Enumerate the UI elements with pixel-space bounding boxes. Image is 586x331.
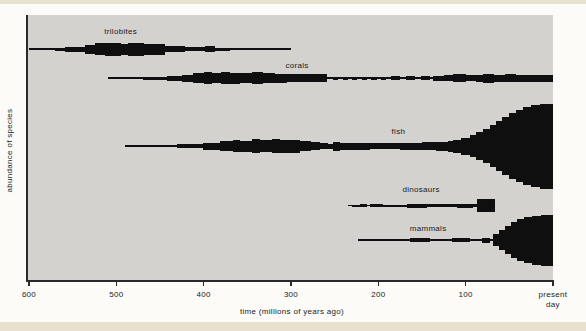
spindle-segment-fish [523, 107, 531, 185]
spindle-segment-fish [272, 139, 280, 153]
spindle-segment-fish [470, 135, 476, 157]
spindle-segment-trilobites [65, 47, 85, 52]
spindle-segment-fish [370, 143, 401, 149]
spindle-segment-corals [204, 72, 213, 84]
x-tick-label-0: day [546, 300, 560, 309]
x-tick-label-300: 300 [284, 290, 298, 299]
spindle-segment-fish [240, 141, 251, 152]
spindle-segment-corals [371, 77, 376, 80]
chart-canvas: trilobitescoralsfishdinosaursmammals6005… [0, 0, 586, 331]
spindle-segment-fish [461, 138, 470, 155]
spindle-segment-trilobites [95, 43, 105, 55]
spindle-segment-corals [421, 76, 430, 80]
spindle-segment-fish [320, 143, 328, 149]
spindle-segment-mammals [410, 238, 430, 242]
spindle-segment-corals [240, 73, 251, 83]
spindle-segment-fish [516, 110, 523, 182]
spindle-segment-trilobites [55, 48, 65, 51]
spindle-segment-fish [540, 104, 553, 189]
x-tick-100 [465, 281, 466, 286]
y-axis-line [26, 15, 28, 282]
spindle-segment-mammals [430, 239, 452, 241]
spindle-segment-fish [280, 140, 300, 153]
spindle-segment-corals [406, 76, 415, 80]
spindle-segment-corals [143, 77, 167, 80]
y-axis-title: abundance of species [5, 91, 14, 211]
spindle-segment-fish [509, 113, 516, 179]
spindle-diagram-figure: trilobitescoralsfishdinosaursmammals6005… [0, 0, 586, 331]
spindle-segment-trilobites [85, 45, 95, 54]
x-tick-0 [552, 281, 553, 286]
spindle-segment-mammals [511, 222, 517, 258]
spindle-segment-corals [287, 74, 327, 82]
spindle-segment-fish [483, 129, 490, 163]
spindle-segment-trilobites [105, 43, 121, 56]
spindle-segment-fish [151, 145, 177, 147]
spindle-segment-corals [167, 76, 182, 81]
spindle-segment-corals [505, 74, 516, 82]
spindle-segment-corals [453, 74, 465, 82]
spindle-segment-fish [448, 141, 453, 152]
spindle-segment-dinosaurs [427, 204, 433, 207]
spindle-segment-fish [203, 143, 220, 150]
spindle-segment-dinosaurs [477, 199, 495, 212]
spindle-segment-fish [496, 121, 502, 171]
x-tick-400 [203, 281, 204, 286]
spindle-segment-corals [193, 73, 203, 83]
spindle-segment-dinosaurs [383, 205, 407, 207]
series-label-fish: fish [392, 127, 406, 136]
spindle-segment-mammals [493, 234, 499, 246]
spindle-segment-corals [230, 73, 240, 84]
spindle-segment-trilobites [121, 44, 128, 55]
spindle-segment-trilobites [185, 47, 205, 51]
series-label-trilobites: trilobites [104, 27, 137, 36]
spindle-segment-fish [220, 141, 233, 151]
spindle-segment-fish [311, 142, 320, 150]
spindle-segment-fish [340, 143, 348, 150]
spindle-segment-trilobites [215, 48, 230, 51]
spindle-segment-fish [177, 144, 202, 148]
x-tick-500 [116, 281, 117, 286]
spindle-segment-dinosaurs [433, 204, 457, 207]
spindle-segment-fish [400, 143, 422, 150]
series-label-mammals: mammals [410, 224, 447, 233]
spindle-segment-dinosaurs [352, 205, 360, 207]
spindle-segment-fish [300, 141, 311, 151]
spindle-segment-corals [391, 76, 400, 80]
spindle-segment-corals [333, 77, 338, 80]
spindle-segment-fish [233, 140, 240, 152]
spindle-segment-corals [252, 72, 263, 84]
spindle-segment-fish [490, 125, 496, 167]
spindle-segment-fish [476, 132, 483, 160]
spindle-segment-corals [343, 77, 348, 80]
spindle-segment-trilobites [29, 49, 55, 50]
x-tick-label-100: 100 [459, 290, 473, 299]
spindle-segment-corals [182, 75, 193, 82]
spindle-segment-mammals [499, 230, 505, 250]
x-axis-title: time (millions of years ago) [182, 307, 402, 316]
spindle-segment-mammals [452, 238, 470, 242]
spindle-segment-mammals [373, 239, 410, 241]
spindle-segment-dinosaurs [360, 204, 367, 208]
spindle-segment-mammals [524, 217, 532, 263]
spindle-segment-corals [221, 72, 230, 84]
spindle-segment-trilobites [128, 43, 145, 56]
spindle-segment-corals [466, 75, 476, 81]
spindle-segment-fish [333, 142, 340, 151]
spindle-segment-fish [436, 142, 448, 151]
series-label-corals: corals [286, 61, 309, 70]
spindle-segment-corals [381, 77, 386, 80]
spindle-segment-corals [516, 75, 553, 82]
spindle-segment-trilobites [144, 44, 165, 55]
x-tick-label-0: present [539, 290, 568, 299]
x-tick-label-400: 400 [197, 290, 211, 299]
spindle-segment-fish [422, 142, 436, 150]
spindle-segment-mammals [532, 216, 541, 265]
x-tick-label-200: 200 [371, 290, 385, 299]
spindle-segment-corals [275, 74, 286, 83]
spindle-segment-dinosaurs [457, 204, 473, 208]
spindle-segment-fish [531, 105, 540, 187]
spindle-segment-fish [453, 140, 461, 153]
spindle-segment-corals [444, 75, 454, 81]
spindle-segment-corals [362, 77, 367, 80]
